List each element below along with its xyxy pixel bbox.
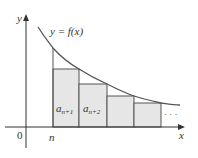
origin-label: 0 [17, 129, 23, 141]
rectangle-4 [134, 103, 161, 127]
x-axis-label: x [178, 129, 184, 141]
y-axis-label: y [16, 12, 22, 24]
rectangle-a-n-plus-1 [53, 69, 79, 127]
curve-label: y = f(x) [49, 25, 83, 38]
y-axis-arrow-icon [23, 14, 29, 21]
rectangles [53, 69, 161, 127]
ellipsis: · · · [164, 109, 178, 119]
n-label: n [49, 131, 55, 143]
rectangle-3 [107, 96, 134, 127]
integral-test-figure: y x 0 n y = f(x) an+1 an+2 · · · [0, 0, 198, 158]
